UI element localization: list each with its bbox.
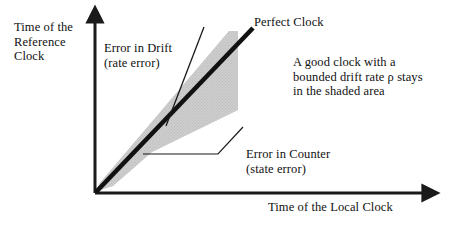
good-clock-note: A good clock with a bounded drift rate ρ… — [293, 55, 423, 99]
error-in-counter-label: Error in Counter (state error) — [246, 147, 330, 176]
perfect-clock-label: Perfect Clock — [254, 15, 324, 30]
y-axis-label: Time of the Reference Clock — [14, 20, 73, 64]
error-in-drift-label: Error in Drift (rate error) — [104, 41, 172, 70]
clock-drift-diagram: Time of the Reference Clock Error in Dri… — [0, 0, 459, 227]
x-axis-label: Time of the Local Clock — [268, 200, 393, 215]
